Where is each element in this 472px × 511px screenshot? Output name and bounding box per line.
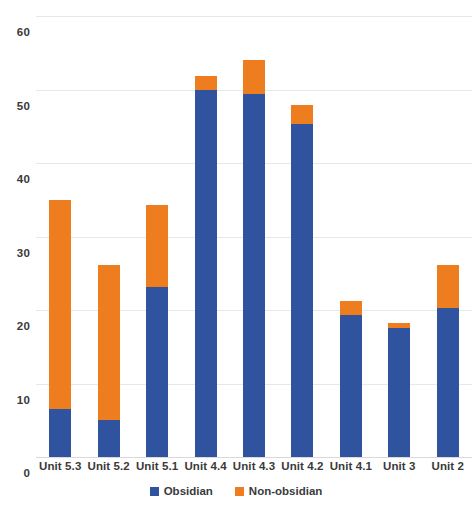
bar-unit-4-2[interactable]	[291, 105, 313, 457]
bar-segment-non-obsidian[interactable]	[243, 60, 265, 94]
y-axis-tick-label: 50	[0, 100, 30, 112]
bar-unit-4-3[interactable]	[243, 60, 265, 457]
bar-unit-4-4[interactable]	[195, 76, 217, 457]
chart-legend: ObsidianNon-obsidian	[0, 485, 472, 497]
legend-swatch-icon	[150, 487, 159, 496]
y-axis-tick-label: 20	[0, 320, 30, 332]
bar-unit-5-2[interactable]	[98, 265, 120, 457]
bar-segment-obsidian[interactable]	[146, 287, 168, 457]
bar-segment-obsidian[interactable]	[340, 315, 362, 457]
legend-swatch-icon	[235, 487, 244, 496]
bar-segment-non-obsidian[interactable]	[98, 265, 120, 420]
legend-item-obsidian[interactable]: Obsidian	[150, 485, 213, 497]
bar-segment-obsidian[interactable]	[49, 409, 71, 458]
x-axis-label-unit-4-4: Unit 4.4	[182, 460, 230, 472]
bar-unit-5-1[interactable]	[146, 205, 168, 457]
bar-unit-2[interactable]	[437, 265, 459, 457]
stacked-bar-chart: 0102030405060 Unit 5.3Unit 5.2Unit 5.1Un…	[0, 0, 472, 511]
bar-segment-obsidian[interactable]	[195, 90, 217, 458]
bar-unit-3[interactable]	[388, 323, 410, 457]
figure-caption-clipped	[0, 503, 472, 511]
x-axis-label-unit-2: Unit 2	[424, 460, 472, 472]
bar-segment-obsidian[interactable]	[98, 420, 120, 457]
y-axis-tick-label: 40	[0, 173, 30, 185]
bar-segment-non-obsidian[interactable]	[146, 205, 168, 287]
bar-unit-5-3[interactable]	[49, 200, 71, 457]
x-axis-label-unit-4-2: Unit 4.2	[278, 460, 326, 472]
x-axis-label-unit-3: Unit 3	[375, 460, 423, 472]
x-axis-label-unit-4-3: Unit 4.3	[230, 460, 278, 472]
x-axis-label-unit-4-1: Unit 4.1	[327, 460, 375, 472]
legend-label: Non-obsidian	[249, 485, 322, 497]
bar-segment-obsidian[interactable]	[437, 308, 459, 457]
bar-segment-obsidian[interactable]	[243, 94, 265, 457]
gridline-0	[36, 457, 472, 458]
bar-segment-non-obsidian[interactable]	[437, 265, 459, 308]
bar-segment-non-obsidian[interactable]	[291, 105, 313, 124]
x-axis-labels: Unit 5.3Unit 5.2Unit 5.1Unit 4.4Unit 4.3…	[36, 460, 472, 482]
legend-item-non-obsidian[interactable]: Non-obsidian	[235, 485, 322, 497]
y-axis-tick-label: 60	[0, 26, 30, 38]
y-axis-tick-label: 0	[0, 467, 30, 479]
y-axis-tick-label: 30	[0, 247, 30, 259]
y-axis-tick-label: 10	[0, 394, 30, 406]
bar-segment-obsidian[interactable]	[291, 124, 313, 457]
bar-segment-non-obsidian[interactable]	[49, 200, 71, 409]
x-axis-label-unit-5-1: Unit 5.1	[133, 460, 181, 472]
x-axis-label-unit-5-3: Unit 5.3	[36, 460, 84, 472]
x-axis-label-unit-5-2: Unit 5.2	[85, 460, 133, 472]
bar-segment-non-obsidian[interactable]	[340, 301, 362, 315]
bar-unit-4-1[interactable]	[340, 301, 362, 457]
bar-segment-non-obsidian[interactable]	[195, 76, 217, 89]
bars-layer	[36, 16, 472, 457]
bar-segment-obsidian[interactable]	[388, 328, 410, 457]
legend-label: Obsidian	[164, 485, 213, 497]
